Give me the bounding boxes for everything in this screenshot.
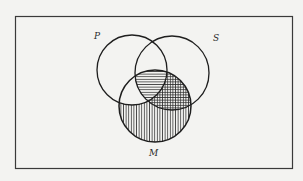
label-p: P	[94, 32, 100, 41]
label-s: S	[213, 34, 219, 43]
venn-diagram-page: P S M	[0, 0, 303, 181]
label-m: M	[149, 149, 158, 158]
